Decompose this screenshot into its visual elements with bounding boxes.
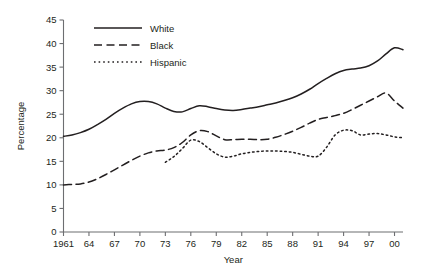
x-tick-label-1988: 88 bbox=[287, 238, 298, 249]
y-tick-label-20: 20 bbox=[46, 132, 57, 143]
series-line-white bbox=[64, 48, 404, 137]
x-tick-label-1976: 76 bbox=[186, 238, 197, 249]
legend-label-hispanic: Hispanic bbox=[150, 57, 187, 68]
legend-label-black: Black bbox=[150, 40, 173, 51]
y-tick-label-5: 5 bbox=[51, 203, 56, 214]
x-tick-label-1973: 73 bbox=[160, 238, 171, 249]
x-tick-label-1970: 70 bbox=[135, 238, 146, 249]
chart-series-group bbox=[64, 48, 404, 185]
y-tick-label-15: 15 bbox=[46, 156, 57, 167]
x-tick-label-1994: 94 bbox=[338, 238, 349, 249]
y-axis-ticks: 051015202530354045 bbox=[46, 14, 64, 237]
x-tick-label-1997: 97 bbox=[364, 238, 375, 249]
y-tick-label-45: 45 bbox=[46, 14, 57, 25]
y-tick-label-40: 40 bbox=[46, 38, 57, 49]
chart-axes bbox=[64, 20, 404, 232]
x-tick-label-1991: 91 bbox=[313, 238, 324, 249]
x-tick-label-1985: 85 bbox=[262, 238, 273, 249]
x-axis-title: Year bbox=[224, 254, 243, 265]
x-axis-ticks: 196164677073767982858891949700 bbox=[53, 232, 400, 249]
chart-legend: WhiteBlackHispanic bbox=[94, 23, 187, 68]
x-tick-label-1964: 64 bbox=[84, 238, 95, 249]
legend-label-white: White bbox=[150, 23, 174, 34]
x-tick-label-1967: 67 bbox=[109, 238, 120, 249]
chart-canvas: 0510152025303540451961646770737679828588… bbox=[0, 0, 422, 279]
y-axis-title: Percentage bbox=[15, 102, 26, 151]
y-tick-label-30: 30 bbox=[46, 85, 57, 96]
series-line-black bbox=[64, 93, 404, 185]
axis-lines bbox=[64, 20, 404, 232]
y-tick-label-35: 35 bbox=[46, 62, 57, 73]
series-line-hispanic bbox=[165, 130, 403, 162]
x-tick-label-2000: 00 bbox=[389, 238, 400, 249]
line-chart: 0510152025303540451961646770737679828588… bbox=[0, 0, 422, 279]
x-tick-label-1979: 79 bbox=[211, 238, 222, 249]
x-tick-label-1961: 1961 bbox=[53, 238, 74, 249]
y-tick-label-10: 10 bbox=[46, 179, 57, 190]
x-tick-label-1982: 82 bbox=[236, 238, 247, 249]
y-tick-label-0: 0 bbox=[51, 226, 56, 237]
y-tick-label-25: 25 bbox=[46, 109, 57, 120]
